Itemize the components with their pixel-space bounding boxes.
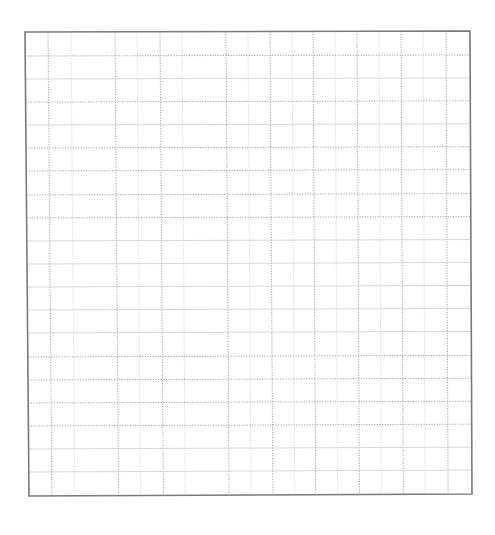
grid-horizontal-line	[26, 147, 471, 148]
grid-horizontal-line	[27, 308, 471, 310]
grid-horizontal-line	[28, 331, 472, 333]
grid-horizontal-line	[26, 101, 471, 102]
grid-horizontal-line	[26, 194, 470, 195]
grid-paper	[0, 0, 495, 535]
grid-lines	[25, 31, 472, 496]
grid-horizontal-line	[26, 170, 470, 171]
grid-horizontal-line	[27, 263, 471, 265]
grid-horizontal-line	[27, 285, 471, 287]
grid-horizontal-line	[29, 447, 472, 449]
grid-horizontal-line	[28, 355, 472, 357]
grid-horizontal-line	[27, 217, 471, 218]
grid-horizontal-line	[27, 240, 471, 241]
grid-horizontal-line	[25, 55, 470, 56]
grid-horizontal-line	[29, 470, 472, 472]
grid-horizontal-line	[28, 378, 472, 380]
grid-horizontal-line	[26, 124, 471, 125]
grid-horizontal-line	[28, 424, 471, 426]
grid-horizontal-line	[25, 78, 470, 79]
grid-horizontal-line	[28, 401, 471, 403]
